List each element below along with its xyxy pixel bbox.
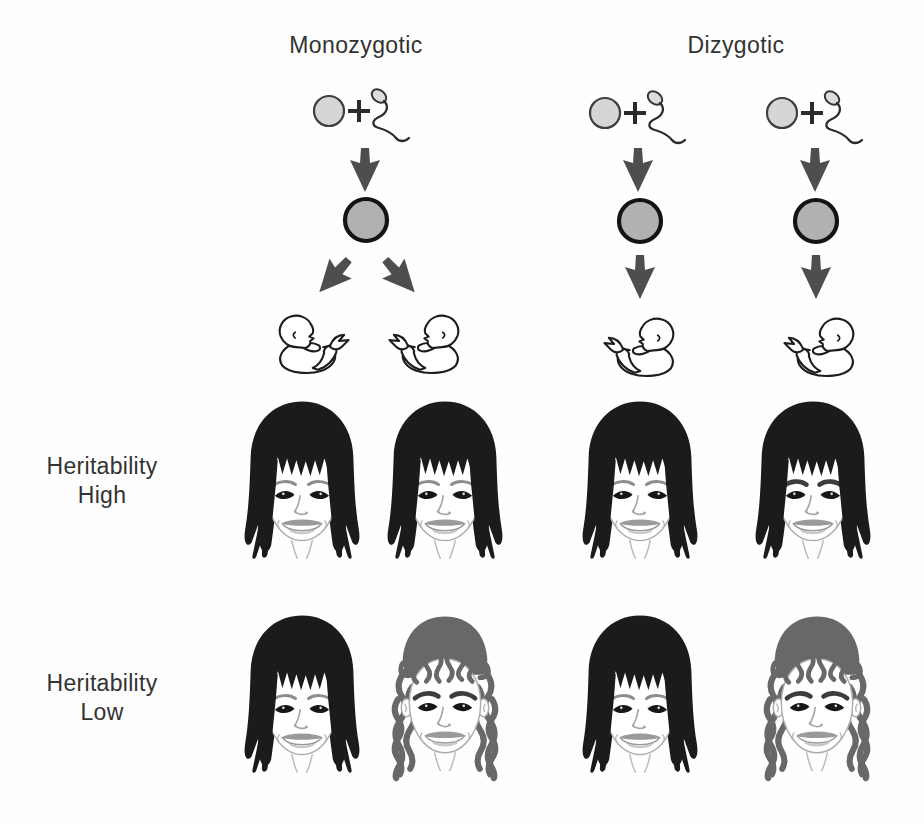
newborn-baby-icon-di-2 xyxy=(774,309,870,379)
column-header-monozygotic: Monozygotic xyxy=(256,32,456,59)
zygote-icon-di-1 xyxy=(616,197,664,245)
egg-plus-sperm-icon-di-1 xyxy=(588,85,708,147)
face-high-di-twin1 xyxy=(570,398,710,600)
row-label-line: High xyxy=(12,481,192,510)
twin-heritability-diagram: Monozygotic Dizygotic Heritability High … xyxy=(0,0,924,824)
newborn-baby-icon-mono-1 xyxy=(263,306,359,376)
row-label-heritability-high: Heritability High xyxy=(12,452,192,510)
arrow-down-icon-mono xyxy=(346,147,384,193)
arrow-down-icon-di-1 xyxy=(619,147,657,193)
row-label-line: Heritability xyxy=(12,452,192,481)
zygote-icon-di-2 xyxy=(792,197,840,245)
split-arrow-left-icon-mono xyxy=(304,246,363,306)
row-label-heritability-low: Heritability Low xyxy=(12,669,192,727)
face-high-mono-twin2 xyxy=(375,398,515,600)
arrow-down-icon-di-2b xyxy=(797,254,835,300)
face-high-di-twin2 xyxy=(743,398,883,600)
face-high-mono-twin1 xyxy=(232,398,372,600)
arrow-down-icon-di-2 xyxy=(796,147,834,193)
split-arrow-right-icon-mono xyxy=(370,246,429,306)
egg-plus-sperm-icon-di-2 xyxy=(765,85,885,147)
face-low-mono-twin2 xyxy=(370,610,520,812)
newborn-baby-icon-mono-2 xyxy=(379,306,475,376)
face-low-mono-twin1 xyxy=(232,612,372,814)
zygote-icon-mono xyxy=(342,196,390,244)
face-low-di-twin1 xyxy=(570,612,710,814)
column-header-dizygotic: Dizygotic xyxy=(636,32,836,59)
arrow-down-icon-di-1b xyxy=(621,254,659,300)
row-label-line: Low xyxy=(12,698,192,727)
egg-plus-sperm-icon-mono xyxy=(312,83,432,145)
row-label-line: Heritability xyxy=(12,669,192,698)
face-low-di-twin2 xyxy=(742,610,892,812)
newborn-baby-icon-di-1 xyxy=(594,309,690,379)
